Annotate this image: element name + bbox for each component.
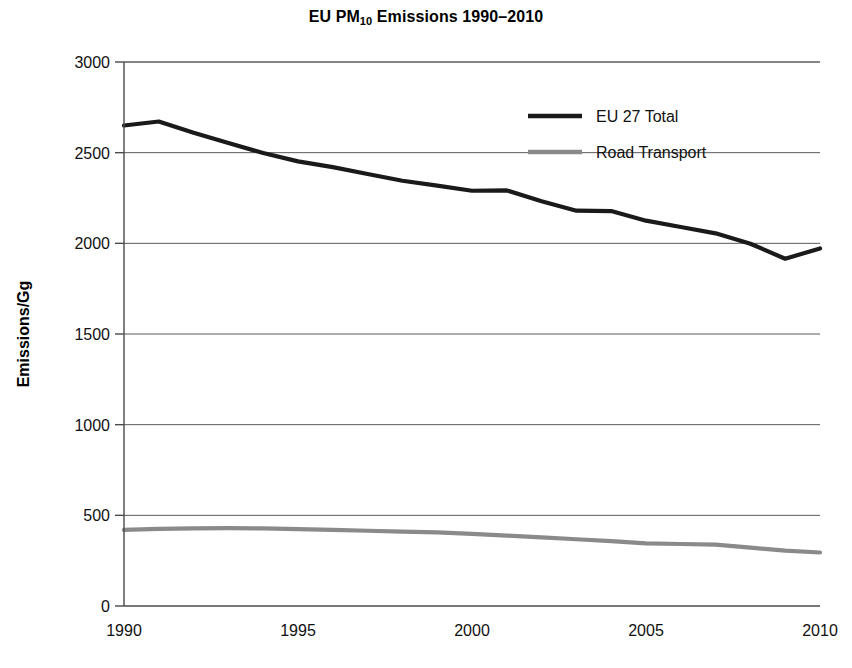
x-tick-label-2005: 2005 xyxy=(628,622,664,639)
series-line-road-transport xyxy=(124,528,820,552)
y-tick-label-1000: 1000 xyxy=(74,417,110,434)
gridlines-group xyxy=(124,62,820,515)
chart-legend: EU 27 TotalRoad Transport xyxy=(528,108,707,161)
y-tick-label-2500: 2500 xyxy=(74,145,110,162)
legend-label-1: Road Transport xyxy=(596,144,707,161)
data-series-group xyxy=(124,121,820,552)
x-tick-labels-group: 19901995200020052010 xyxy=(106,622,838,639)
y-tick-label-500: 500 xyxy=(83,507,110,524)
series-line-eu-27-total xyxy=(124,121,820,258)
chart-figure: EU PM10 Emissions 1990–2010 Emissions/Gg… xyxy=(0,0,852,668)
chart-title-subscript: 10 xyxy=(360,15,372,27)
chart-title-main: EU PM xyxy=(309,8,360,25)
x-tick-label-1990: 1990 xyxy=(106,622,142,639)
y-tick-labels-group: 050010001500200025003000 xyxy=(74,54,124,615)
chart-title-tail: Emissions 1990–2010 xyxy=(372,8,543,25)
y-tick-label-3000: 3000 xyxy=(74,54,110,71)
y-tick-label-2000: 2000 xyxy=(74,235,110,252)
chart-title: EU PM10 Emissions 1990–2010 xyxy=(0,8,852,26)
legend-label-0: EU 27 Total xyxy=(596,108,678,125)
x-tick-label-2010: 2010 xyxy=(802,622,838,639)
x-tick-label-2000: 2000 xyxy=(454,622,490,639)
y-tick-label-0: 0 xyxy=(101,598,110,615)
chart-plot-area: 050010001500200025003000 199019952000200… xyxy=(0,0,852,668)
y-tick-label-1500: 1500 xyxy=(74,326,110,343)
x-tick-label-1995: 1995 xyxy=(280,622,316,639)
